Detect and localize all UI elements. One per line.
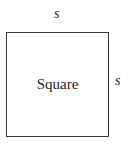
square-label: Square bbox=[6, 32, 109, 137]
top-side-label: s bbox=[54, 7, 59, 21]
right-side-label: s bbox=[115, 74, 120, 88]
